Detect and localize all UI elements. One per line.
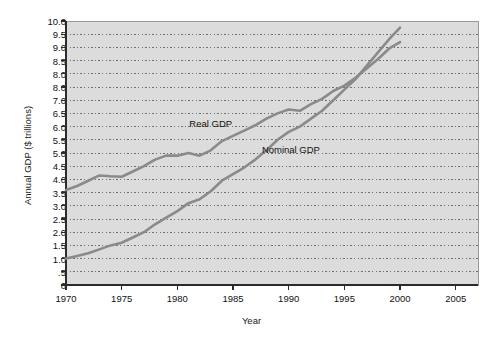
- plot-area: [0, 0, 503, 337]
- series-label-real-gdp: Real GDP: [189, 117, 232, 128]
- x-axis-title: Year: [0, 315, 503, 326]
- series-label-nominal-gdp: Nominal GDP: [262, 144, 320, 155]
- gdp-line-chart: Annual GDP ($ trillions) 0.51.01.52.02.5…: [0, 0, 503, 337]
